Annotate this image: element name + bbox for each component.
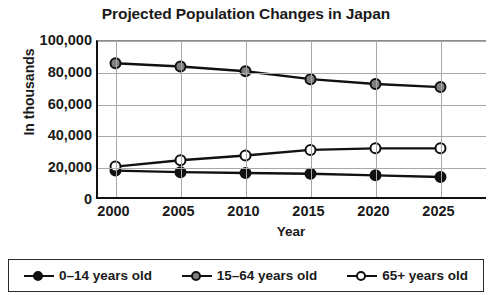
- series-line: [116, 171, 441, 177]
- gridline-vertical: [441, 41, 442, 197]
- gridline-vertical: [246, 41, 247, 197]
- x-axis-tick-label: 2020: [357, 203, 389, 219]
- y-axis-tick-label: 80,000: [4, 64, 96, 80]
- gridline-vertical: [311, 41, 312, 197]
- x-axis-tick-label: 2015: [292, 203, 324, 219]
- y-axis-tick-label: 0: [4, 191, 96, 207]
- legend-label: 65+ years old: [382, 268, 468, 283]
- series-layer: [98, 41, 488, 200]
- series-line: [116, 63, 441, 87]
- gridline-vertical: [181, 41, 182, 197]
- chart-figure: Projected Population Changes in Japan In…: [0, 0, 492, 295]
- legend-marker-icon: [347, 269, 377, 282]
- gridline-horizontal: [98, 41, 486, 42]
- y-axis-tick-label: 100,000: [4, 32, 96, 48]
- x-axis-tick-label: 2010: [227, 203, 259, 219]
- gridline-horizontal: [98, 136, 486, 137]
- gridline-vertical: [116, 41, 117, 197]
- y-axis-tick-label: 40,000: [4, 127, 96, 143]
- gridline-vertical: [376, 41, 377, 197]
- legend-item[interactable]: 15–64 years old: [182, 268, 318, 283]
- gridline-horizontal: [98, 168, 486, 169]
- plot-area: [96, 40, 486, 199]
- gridline-horizontal: [98, 73, 486, 74]
- series-line: [116, 148, 441, 166]
- legend-label: 0–14 years old: [59, 268, 152, 283]
- x-axis-tick-label: 2025: [422, 203, 454, 219]
- gridline-horizontal: [98, 105, 486, 106]
- chart-legend: 0–14 years old15–64 years old65+ years o…: [8, 259, 484, 292]
- x-axis-title: Year: [96, 224, 486, 239]
- legend-label: 15–64 years old: [217, 268, 318, 283]
- y-axis-tick-label: 60,000: [4, 96, 96, 112]
- y-axis-tick-label: 20,000: [4, 159, 96, 175]
- legend-item[interactable]: 0–14 years old: [24, 268, 152, 283]
- x-axis-tick-label: 2000: [97, 203, 129, 219]
- y-axis-tick-labels: 020,00040,00060,00080,000100,000: [0, 0, 96, 295]
- x-axis-tick-label: 2005: [162, 203, 194, 219]
- legend-marker-icon: [24, 269, 54, 282]
- legend-marker-icon: [182, 269, 212, 282]
- legend-item[interactable]: 65+ years old: [347, 268, 468, 283]
